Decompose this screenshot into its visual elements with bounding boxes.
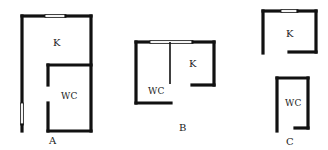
plan-c-kitchen-window (281, 10, 298, 13)
plan-a: K WC A (21, 15, 91, 146)
plan-a-side-window (21, 103, 24, 125)
plan-a-label: A (48, 135, 57, 146)
plan-b-wc-label: WC (148, 86, 165, 96)
floor-plan-diagram: K WC A WC K B K (0, 0, 328, 150)
plan-c-wc-label: WC (285, 98, 302, 108)
plan-b-label: B (179, 122, 186, 133)
plan-a-kitchen-label: K (53, 37, 61, 48)
plan-b: WC K B (136, 41, 214, 133)
plan-c: K WC C (263, 10, 316, 147)
plan-a-top-window (45, 15, 66, 18)
plan-a-wc-label: WC (61, 91, 78, 101)
plan-c-kitchen-label: K (286, 28, 294, 39)
plan-c-label: C (286, 136, 294, 147)
plan-b-kitchen-label: K (189, 58, 197, 69)
plan-b-top-window (150, 41, 193, 44)
